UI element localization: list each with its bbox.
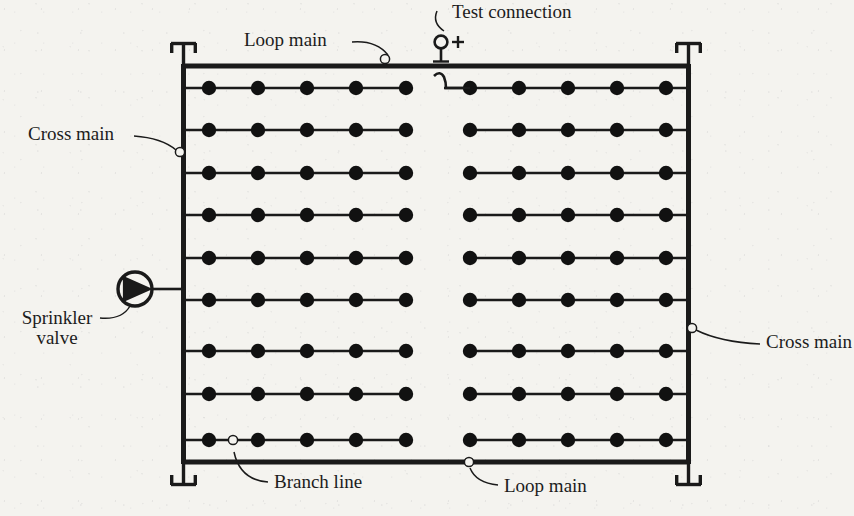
leader-test-connection bbox=[436, 11, 444, 31]
leader-branch-line bbox=[234, 452, 268, 482]
label-branch-line: Branch line bbox=[274, 472, 362, 492]
leader-loop-main-top bbox=[352, 42, 388, 55]
label-cross-main-right: Cross main bbox=[766, 332, 852, 352]
callout-marker-branch-line bbox=[228, 435, 237, 444]
branch-row bbox=[184, 251, 689, 265]
riser-stub-top-left bbox=[171, 42, 196, 66]
test-connection-symbol bbox=[433, 36, 470, 88]
branch-row bbox=[184, 433, 689, 447]
branch-row bbox=[184, 293, 689, 307]
branch-row bbox=[184, 123, 689, 137]
label-cross-main-left: Cross main bbox=[28, 124, 114, 144]
label-loop-main-bottom: Loop main bbox=[504, 476, 587, 496]
riser-stub-top-right bbox=[676, 42, 701, 66]
branch-line-group bbox=[184, 81, 689, 447]
label-sprinkler-valve-line1: Sprinkler bbox=[8, 308, 106, 328]
branch-row bbox=[184, 387, 689, 401]
sprinkler-valve-symbol bbox=[118, 272, 184, 306]
label-test-connection: Test connection bbox=[452, 2, 572, 22]
riser-stub-bottom-right bbox=[676, 462, 701, 486]
label-sprinkler-valve-line2: valve bbox=[8, 328, 106, 348]
label-sprinkler-valve: Sprinkler valve bbox=[8, 308, 106, 348]
branch-row bbox=[184, 166, 689, 180]
branch-row bbox=[184, 344, 689, 358]
riser-stub-bottom-left bbox=[171, 462, 196, 486]
callout-marker-cross-main-right bbox=[687, 323, 696, 332]
branch-row bbox=[184, 81, 689, 95]
callout-marker-loop-main-top bbox=[380, 54, 389, 63]
sprinkler-piping-diagram bbox=[0, 0, 854, 516]
callout-marker-loop-main-bottom bbox=[464, 457, 473, 466]
label-loop-main-top: Loop main bbox=[244, 30, 327, 50]
diagram-canvas: Loop main Test connection Cross main Cro… bbox=[0, 0, 854, 516]
leader-line-group bbox=[100, 11, 760, 485]
leader-loop-main-bottom bbox=[470, 468, 498, 485]
leader-cross-main-right bbox=[696, 330, 760, 344]
branch-row bbox=[184, 208, 689, 222]
leader-cross-main-left bbox=[134, 136, 176, 150]
callout-marker-cross-main-left bbox=[175, 147, 184, 156]
